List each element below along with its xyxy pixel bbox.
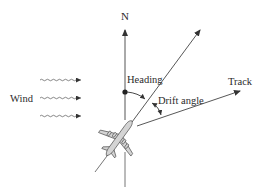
drift-angle-label: Drift angle [158, 95, 204, 106]
wind-arrow-1 [40, 79, 81, 81]
track-label: Track [228, 76, 253, 87]
heading-label: Heading [127, 74, 163, 85]
wind-arrows [40, 79, 81, 117]
heading-origin-dot [122, 89, 127, 94]
wind-label: Wind [10, 93, 34, 104]
wind-arrow-2 [40, 97, 81, 99]
north-label: N [121, 10, 129, 22]
drift-angle-diagram: N Track Heading Drift angle Wind [0, 0, 263, 195]
wind-arrow-3 [40, 115, 81, 117]
airplane-icon [90, 109, 148, 167]
heading-angle-arc [127, 92, 145, 99]
